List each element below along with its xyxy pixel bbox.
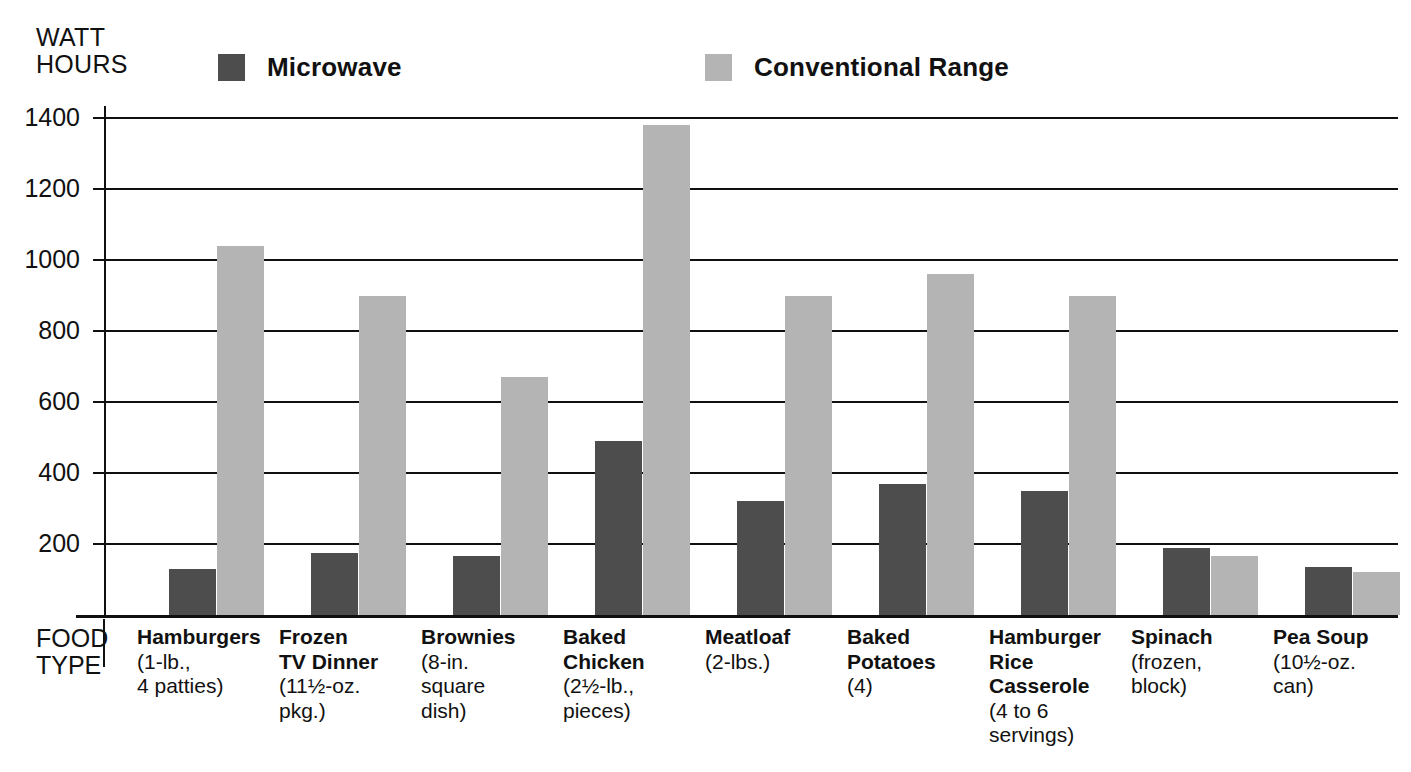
category-name: Baked Chicken [563, 625, 699, 674]
bar-conventional-range-7 [1211, 556, 1258, 615]
legend-label: Conventional Range [754, 52, 1009, 83]
bar-microwave-6 [1021, 491, 1068, 615]
bar-conventional-range-4 [785, 296, 832, 616]
y-tick-mark [93, 259, 106, 261]
y-tick-mark [93, 401, 106, 403]
y-tick-mark [93, 188, 106, 190]
y-tick-label: 1000 [0, 247, 80, 272]
x-axis-title: FOOD TYPE [36, 625, 108, 679]
x-axis-line [76, 615, 1398, 618]
category-name: Pea Soup [1273, 625, 1409, 650]
category-name: Hamburgers [137, 625, 273, 650]
bar-microwave-5 [879, 484, 926, 615]
category-name: Meatloaf [705, 625, 841, 650]
category-label-8: Pea Soup(10½-oz. can) [1273, 625, 1409, 699]
bar-series-container [106, 118, 1398, 615]
category-label-6: Hamburger Rice Casserole(4 to 6 servings… [989, 625, 1125, 748]
y-tick-mark [93, 117, 106, 119]
y-tick-mark [93, 330, 106, 332]
y-tick-label: 1200 [0, 176, 80, 201]
category-detail: (1-lb., 4 patties) [137, 650, 273, 699]
legend-swatch-icon [705, 54, 732, 81]
bar-microwave-1 [311, 553, 358, 615]
y-tick-label: 200 [0, 531, 80, 556]
legend-swatch-icon [218, 54, 245, 81]
bar-conventional-range-0 [217, 246, 264, 615]
bar-microwave-3 [595, 441, 642, 615]
category-detail: (10½-oz. can) [1273, 650, 1409, 699]
bar-conventional-range-2 [501, 377, 548, 615]
bar-microwave-2 [453, 556, 500, 615]
y-tick-label: 1400 [0, 105, 80, 130]
category-label-0: Hamburgers(1-lb., 4 patties) [137, 625, 273, 699]
category-axis: FOOD TYPE Hamburgers(1-lb., 4 patties)Fr… [0, 621, 1411, 771]
category-name: Baked Potatoes [847, 625, 983, 674]
category-name: Hamburger Rice Casserole [989, 625, 1125, 699]
category-detail: (2½-lb., pieces) [563, 674, 699, 723]
axis-divider [103, 619, 105, 667]
category-label-2: Brownies(8-in. square dish) [421, 625, 557, 723]
category-detail: (8-in. square dish) [421, 650, 557, 724]
legend-label: Microwave [267, 52, 402, 83]
y-tick-label: 400 [0, 460, 80, 485]
watt-hours-bar-chart: WATT HOURS MicrowaveConventional Range 1… [0, 0, 1411, 772]
plot-area: 140012001000800600400200 [106, 118, 1398, 615]
category-label-4: Meatloaf(2-lbs.) [705, 625, 841, 674]
bar-microwave-0 [169, 569, 216, 615]
bar-conventional-range-5 [927, 274, 974, 615]
category-name: Spinach [1131, 625, 1267, 650]
y-tick-label: 600 [0, 389, 80, 414]
legend-item-conventional-range: Conventional Range [705, 52, 1009, 83]
category-label-1: Frozen TV Dinner(11½-oz. pkg.) [279, 625, 415, 723]
category-label-3: Baked Chicken(2½-lb., pieces) [563, 625, 699, 723]
y-tick-label: 800 [0, 318, 80, 343]
category-detail: (frozen, block) [1131, 650, 1267, 699]
category-label-7: Spinach(frozen, block) [1131, 625, 1267, 699]
y-tick-mark [93, 472, 106, 474]
category-detail: (4 to 6 servings) [989, 699, 1125, 748]
bar-conventional-range-3 [643, 125, 690, 615]
category-name: Brownies [421, 625, 557, 650]
category-detail: (11½-oz. pkg.) [279, 674, 415, 723]
y-tick-mark [93, 543, 106, 545]
y-axis-title: WATT HOURS [36, 24, 128, 78]
bar-microwave-4 [737, 501, 784, 615]
chart-legend: MicrowaveConventional Range [218, 52, 1318, 92]
category-detail: (2-lbs.) [705, 650, 841, 675]
bar-conventional-range-6 [1069, 296, 1116, 616]
category-detail: (4) [847, 674, 983, 699]
bar-microwave-8 [1305, 567, 1352, 615]
bar-microwave-7 [1163, 548, 1210, 615]
category-name: Frozen TV Dinner [279, 625, 415, 674]
bar-conventional-range-8 [1353, 572, 1400, 615]
bar-conventional-range-1 [359, 296, 406, 616]
category-label-5: Baked Potatoes(4) [847, 625, 983, 699]
legend-item-microwave: Microwave [218, 52, 402, 83]
